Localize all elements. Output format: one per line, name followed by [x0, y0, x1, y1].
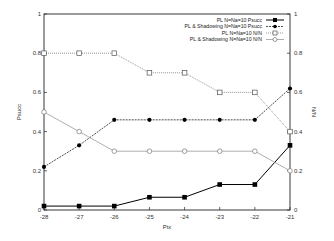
- y-tick-label-right: 0.2: [294, 168, 303, 174]
- y-tick-label: 0.6: [33, 89, 42, 95]
- x-tick-label: -22: [251, 214, 260, 220]
- series-filled-circle: [42, 86, 292, 169]
- x-tick-label: -25: [145, 214, 154, 220]
- x-tick-label: -23: [215, 214, 224, 220]
- legend-entry: PL & Shadowing N=Na=10 Psucc: [185, 23, 284, 29]
- y-tick-label-right: 1: [294, 11, 298, 17]
- legend-entry: PL & Shadowing N=Na=10 N/N: [190, 36, 284, 42]
- y-tick-label-right: 0.4: [294, 129, 303, 135]
- plot-frame: [44, 14, 290, 210]
- y-axis-label-right: N/N: [311, 107, 317, 117]
- legend-entry: PL N=Na=10 Psucc: [217, 17, 284, 23]
- y-tick-label-right: 0: [294, 207, 298, 213]
- y-axis-right: 00.20.40.60.81: [287, 11, 303, 213]
- line-chart: 00.20.40.60.81 00.20.40.60.81 -28-27-26-…: [0, 0, 334, 241]
- x-tick-label: -24: [180, 214, 189, 220]
- y-tick-label: 0.8: [33, 50, 42, 56]
- y-tick-label-right: 0.8: [294, 50, 303, 56]
- legend-label: PL & Shadowing N=Na=10 Psucc: [185, 23, 263, 29]
- legend-label: PL N=Na=10 N/N: [222, 30, 262, 36]
- x-tick-label: -21: [286, 214, 295, 220]
- x-tick-label: -28: [40, 214, 49, 220]
- y-tick-label: 0.4: [33, 129, 42, 135]
- legend: PL N=Na=10 PsuccPL & Shadowing N=Na=10 P…: [185, 17, 284, 43]
- legend-label: PL & Shadowing N=Na=10 N/N: [190, 36, 262, 42]
- y-tick-label: 1: [38, 11, 42, 17]
- series-group: [42, 51, 293, 208]
- y-axis-label-left: Psucc: [16, 104, 22, 120]
- x-tick-label: -26: [110, 214, 119, 220]
- legend-entry: PL N=Na=10 N/N: [222, 30, 284, 36]
- x-axis-label: Ptx: [163, 224, 172, 230]
- x-axis: -28-27-26-25-24-23-22-21: [40, 207, 295, 220]
- y-tick-label: 0: [38, 207, 42, 213]
- legend-label: PL N=Na=10 Psucc: [217, 17, 263, 23]
- y-tick-label: 0.2: [33, 168, 42, 174]
- y-tick-label-right: 0.6: [294, 89, 303, 95]
- x-tick-label: -27: [75, 214, 84, 220]
